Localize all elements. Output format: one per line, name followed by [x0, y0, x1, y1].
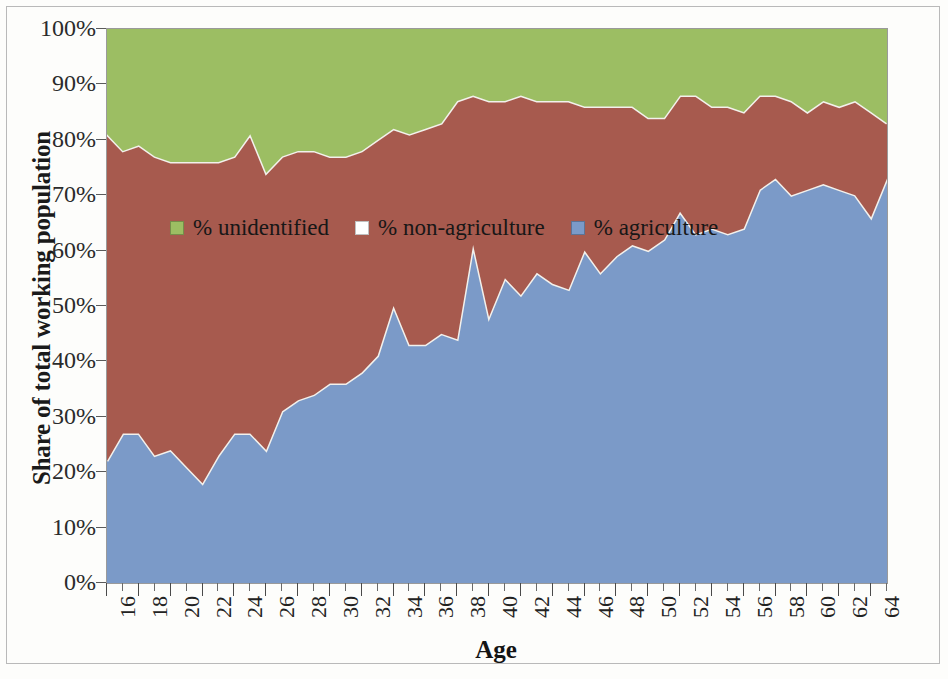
- y-tick-label: 0%: [8, 569, 96, 596]
- legend-item: % non-agriculture: [355, 216, 545, 239]
- x-axis-ticks: [106, 583, 888, 597]
- x-tick-mark-major: [711, 583, 712, 596]
- x-tick-label: 54: [720, 596, 746, 640]
- legend-swatch-icon: [571, 221, 585, 235]
- x-tick-mark-minor: [472, 583, 473, 591]
- x-tick-mark-minor: [217, 583, 218, 591]
- x-tick-mark-minor: [345, 583, 346, 591]
- x-tick-mark-minor: [886, 583, 887, 591]
- x-tick-label: 32: [370, 596, 396, 640]
- y-tick-mark: [96, 582, 106, 583]
- x-tick-mark-minor: [281, 583, 282, 591]
- x-tick-mark-major: [106, 583, 107, 596]
- x-tick-label: 52: [688, 596, 714, 640]
- area-layers: [107, 29, 887, 583]
- x-tick-mark-major: [456, 583, 457, 596]
- x-tick-label: 36: [433, 596, 459, 640]
- legend-swatch-icon: [170, 221, 184, 235]
- y-tick-mark: [96, 194, 106, 195]
- x-tick-mark-major: [552, 583, 553, 596]
- y-tick-label: 60%: [8, 236, 96, 263]
- x-tick-label: 26: [274, 596, 300, 640]
- x-tick-mark-minor: [154, 583, 155, 591]
- x-tick-mark-minor: [504, 583, 505, 591]
- x-tick-mark-minor: [122, 583, 123, 591]
- x-tick-mark-minor: [249, 583, 250, 591]
- x-tick-label: 44: [561, 596, 587, 640]
- x-tick-label: 58: [784, 596, 810, 640]
- x-tick-mark-minor: [790, 583, 791, 591]
- x-tick-mark-major: [488, 583, 489, 596]
- x-tick-mark-major: [297, 583, 298, 596]
- x-tick-mark-major: [838, 583, 839, 596]
- x-tick-label: 56: [752, 596, 778, 640]
- x-tick-mark-minor: [568, 583, 569, 591]
- y-tick-label: 10%: [8, 513, 96, 540]
- x-tick-label: 46: [593, 596, 619, 640]
- x-tick-mark-major: [520, 583, 521, 596]
- y-axis-tick-labels: 100%90%80%70%60%50%40%30%20%10%0%: [0, 0, 96, 679]
- x-tick-mark-major: [806, 583, 807, 596]
- x-tick-mark-major: [361, 583, 362, 596]
- x-tick-mark-minor: [440, 583, 441, 591]
- y-tick-label: 90%: [8, 70, 96, 97]
- x-tick-mark-minor: [759, 583, 760, 591]
- x-axis-title: Age: [106, 636, 886, 664]
- legend-item: % agriculture: [571, 216, 719, 239]
- x-tick-mark-minor: [377, 583, 378, 591]
- x-tick-label: 24: [242, 596, 268, 640]
- x-tick-label: 34: [402, 596, 428, 640]
- y-tick-label: 50%: [8, 292, 96, 319]
- x-tick-mark-minor: [536, 583, 537, 591]
- x-tick-mark-minor: [695, 583, 696, 591]
- x-tick-mark-major: [138, 583, 139, 596]
- x-tick-mark-major: [615, 583, 616, 596]
- x-tick-label: 64: [879, 596, 905, 640]
- y-tick-label: 80%: [8, 125, 96, 152]
- x-tick-mark-major: [265, 583, 266, 596]
- x-tick-mark-major: [170, 583, 171, 596]
- y-tick-label: 100%: [8, 15, 96, 42]
- x-tick-label: 40: [497, 596, 523, 640]
- x-tick-mark-major: [743, 583, 744, 596]
- x-tick-mark-major: [393, 583, 394, 596]
- y-tick-mark: [96, 416, 106, 417]
- y-tick-mark: [96, 471, 106, 472]
- y-tick-mark: [96, 139, 106, 140]
- x-tick-mark-major: [647, 583, 648, 596]
- x-tick-label: 50: [656, 596, 682, 640]
- y-tick-label: 30%: [8, 402, 96, 429]
- x-tick-mark-major: [424, 583, 425, 596]
- legend-item-label: % unidentified: [193, 216, 329, 239]
- x-tick-label: 38: [465, 596, 491, 640]
- x-tick-label: 30: [338, 596, 364, 640]
- x-tick-label: 28: [306, 596, 332, 640]
- x-tick-mark-minor: [727, 583, 728, 591]
- x-tick-mark-minor: [631, 583, 632, 591]
- chart-legend: % unidentified% non-agriculture% agricul…: [170, 216, 718, 239]
- x-tick-label: 20: [179, 596, 205, 640]
- x-tick-label: 60: [815, 596, 841, 640]
- x-tick-label: 16: [115, 596, 141, 640]
- x-tick-mark-major: [329, 583, 330, 596]
- x-tick-label: 18: [147, 596, 173, 640]
- y-tick-mark: [96, 527, 106, 528]
- legend-item: % unidentified: [170, 216, 329, 239]
- y-tick-mark: [96, 305, 106, 306]
- stacked-area-svg: [107, 29, 887, 583]
- x-tick-mark-minor: [313, 583, 314, 591]
- legend-item-label: % agriculture: [594, 216, 719, 239]
- x-tick-mark-minor: [663, 583, 664, 591]
- legend-swatch-icon: [355, 221, 369, 235]
- x-tick-mark-major: [584, 583, 585, 596]
- x-tick-mark-major: [679, 583, 680, 596]
- y-tick-label: 40%: [8, 347, 96, 374]
- y-tick-mark: [96, 360, 106, 361]
- x-tick-mark-major: [202, 583, 203, 596]
- x-tick-mark-minor: [408, 583, 409, 591]
- x-tick-mark-major: [775, 583, 776, 596]
- x-tick-mark-major: [870, 583, 871, 596]
- y-tick-label: 70%: [8, 181, 96, 208]
- chart-figure: Share of total working population 100%90…: [0, 0, 948, 679]
- legend-item-label: % non-agriculture: [378, 216, 545, 239]
